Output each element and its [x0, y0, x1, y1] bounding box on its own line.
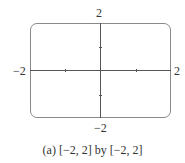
x-min-label: −2	[13, 65, 26, 77]
y-axis	[100, 23, 101, 118]
y-min-label: −2	[94, 122, 107, 134]
figure-caption: (a) [−2, 2] by [−2, 2]	[0, 143, 185, 158]
y-tick-pos1	[99, 47, 102, 48]
x-max-label: 2	[174, 65, 180, 77]
y-tick-neg1	[99, 95, 102, 96]
x-tick-pos1	[136, 69, 137, 72]
x-tick-neg1	[65, 69, 66, 72]
y-max-label: 2	[96, 7, 102, 19]
